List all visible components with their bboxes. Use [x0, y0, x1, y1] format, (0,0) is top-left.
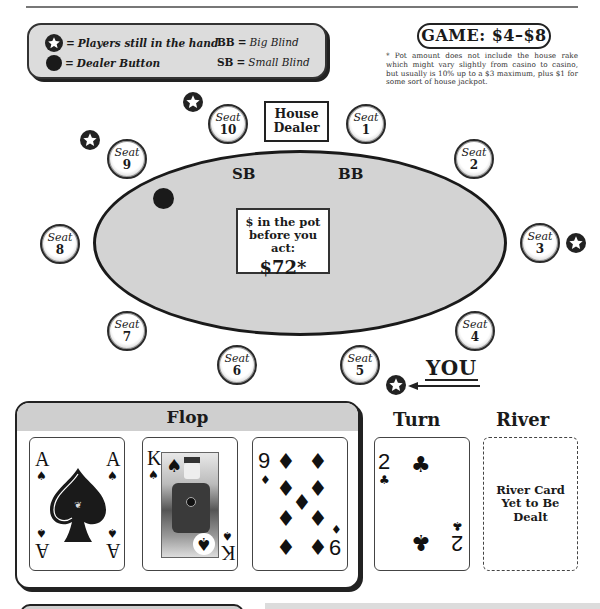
pot-box: $ in the pot before you act: $72* [236, 208, 330, 274]
flop-title: Flop [17, 403, 358, 431]
dealer-button-icon [153, 188, 174, 209]
seat-9: Seat9 [107, 139, 147, 179]
arrow-left-icon [408, 381, 480, 391]
seat-7: Seat7 [107, 311, 147, 351]
star-icon [183, 92, 203, 112]
star-icon [566, 233, 586, 253]
star-icon [80, 130, 100, 150]
legend-big-blind: BB = Big Blind [217, 36, 299, 48]
flop-card-3: 9 ♦ ♦ ♦ ♦ ♦ ♦ ♦ ♦ ♦ ♦ ♦ 9 [252, 437, 348, 571]
bottom-panel-left [20, 604, 244, 609]
game-stakes-badge: GAME: $4–$8 [417, 23, 551, 49]
river-card-placeholder: River Card Yet to Be Dealt [483, 437, 578, 571]
seat-4: Seat4 [455, 311, 495, 351]
pot-amount: $72* [238, 257, 328, 279]
turn-title: Turn [393, 409, 440, 430]
seat-3: Seat3 [520, 223, 560, 263]
dealer-button-icon [46, 55, 62, 71]
star-icon [386, 375, 406, 395]
seat-5: Seat5 [340, 345, 380, 385]
flop-card-1: A ♠ A ♠ ❦ A ♠ A ♠ [29, 437, 125, 571]
legend-box: = Players still in the hand = Dealer But… [27, 23, 327, 79]
flop-panel: Flop A ♠ A ♠ ❦ A ♠ A ♠ K ♠ ♠ ♠ K ♠ 9 [15, 401, 360, 589]
pot-caption: $ in the pot before you act: [238, 216, 328, 255]
top-divider [26, 6, 578, 8]
river-title: River [496, 409, 549, 430]
rake-footnote: * Pot amount does not include the house … [386, 52, 578, 87]
ace-spade-pip-icon: ❦ [48, 466, 108, 546]
svg-text:❦: ❦ [74, 500, 82, 510]
seat-2: Seat2 [454, 139, 494, 179]
star-icon [45, 34, 63, 52]
legend-small-blind: SB = Small Blind [217, 56, 310, 68]
seat-10: Seat10 [208, 104, 248, 144]
turn-card: 2 ♣ ♣ ♣ ♣ 2 [374, 437, 470, 571]
legend-players-in-hand: = Players still in the hand [45, 34, 218, 52]
legend-dealer-button: = Dealer Button [46, 55, 160, 71]
seat-6: Seat6 [217, 345, 257, 385]
king-face-art: ♠ ♠ [161, 452, 219, 558]
bottom-panel-right [265, 603, 600, 609]
seat-1: Seat1 [346, 104, 386, 144]
you-label: YOU [425, 357, 478, 381]
big-blind-marker: BB [338, 165, 363, 183]
flop-card-2: K ♠ ♠ ♠ K ♠ [142, 437, 238, 571]
house-dealer-box: House Dealer [264, 101, 329, 142]
seat-8: Seat8 [40, 224, 80, 264]
small-blind-marker: SB [232, 165, 256, 183]
